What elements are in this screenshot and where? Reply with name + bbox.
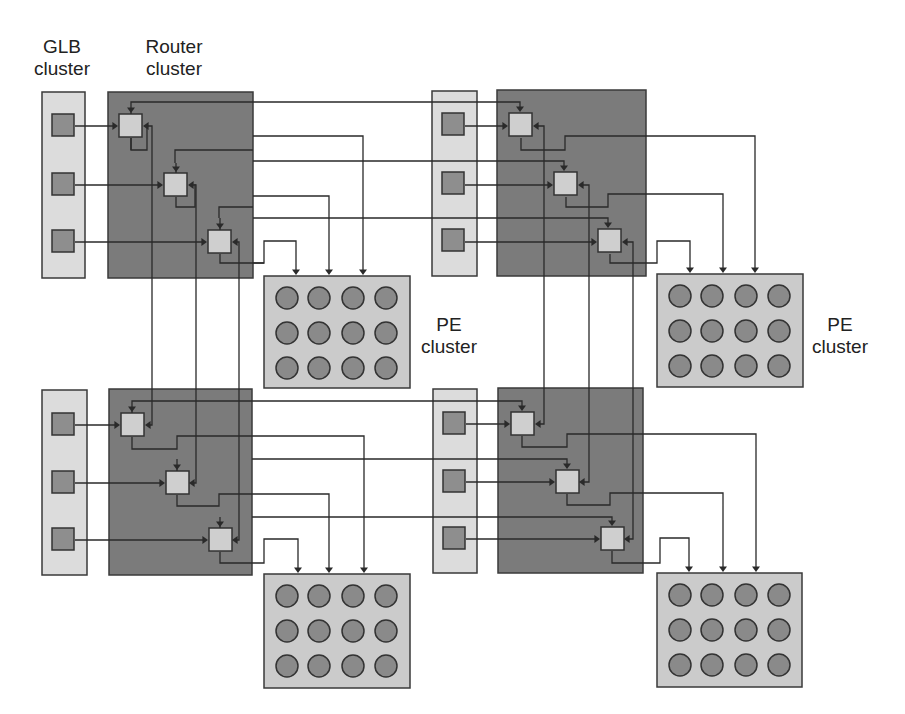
processing-element [342,322,364,344]
router-switch [119,114,142,137]
arrowhead-icon [752,566,760,572]
processing-element [768,285,790,307]
processing-element [669,584,691,606]
processing-element [375,357,397,379]
glb-bank [442,229,464,251]
router-switch [164,173,187,196]
glb-bank [442,172,464,194]
arrowhead-icon [686,267,694,273]
arrowhead-icon [719,566,727,572]
processing-element [735,584,757,606]
glb-bank [52,173,74,195]
processing-element [276,655,298,677]
processing-element [735,285,757,307]
router-switch [556,470,579,493]
processing-element [669,654,691,676]
processing-element [701,320,723,342]
processing-element [276,585,298,607]
glb-bank [443,470,465,492]
tile-top-right [432,90,803,387]
processing-element [768,584,790,606]
processing-element [701,584,723,606]
processing-element [308,585,330,607]
processing-element [768,355,790,377]
router-switch [511,412,534,435]
glb-bank [52,114,74,136]
processing-element [342,620,364,642]
processing-element [375,322,397,344]
interconnect-wire [252,401,522,409]
router-switch [208,230,231,253]
router-switch [554,172,577,195]
arrowhead-icon [292,269,300,275]
processing-element [342,287,364,309]
processing-element [669,285,691,307]
arrowhead-icon [325,269,333,275]
arrowhead-icon [359,269,367,275]
arrowhead-icon [719,267,727,273]
processing-element [342,585,364,607]
processing-element [768,654,790,676]
router-switch [598,229,621,252]
processing-element [701,654,723,676]
interconnect-wire [253,136,363,273]
processing-element [735,654,757,676]
processing-element [342,357,364,379]
arrowhead-icon [294,567,302,573]
arrowhead-icon [360,567,368,573]
tile-bottom-left [42,389,410,688]
processing-element [701,619,723,641]
glb-bank [442,113,464,135]
glb-bank [52,471,74,493]
processing-element [375,585,397,607]
processing-element [276,620,298,642]
processing-element [276,322,298,344]
glb-bank [52,528,74,550]
processing-element [276,357,298,379]
router-switch [121,413,144,436]
arrowhead-icon [751,267,759,273]
arrowhead-icon [685,566,693,572]
glb-bank [52,413,74,435]
processing-element [701,355,723,377]
router-switch [166,471,189,494]
glb-bank [443,527,465,549]
processing-element [669,619,691,641]
processing-element [342,655,364,677]
processing-element [375,620,397,642]
tile-bottom-right [433,388,802,687]
processing-element [768,619,790,641]
noc-diagram [0,0,905,714]
processing-element [669,320,691,342]
processing-element [375,287,397,309]
processing-element [735,619,757,641]
processing-element [375,655,397,677]
router-switch [601,527,624,550]
processing-element [669,355,691,377]
processing-element [308,357,330,379]
router-switch [509,113,532,136]
processing-element [276,287,298,309]
processing-element [768,320,790,342]
processing-element [308,655,330,677]
processing-element [735,320,757,342]
processing-element [308,322,330,344]
processing-element [701,285,723,307]
glb-bank [52,230,74,252]
router-switch [209,528,232,551]
processing-element [308,287,330,309]
processing-element [735,355,757,377]
glb-bank [443,412,465,434]
arrowhead-icon [325,567,333,573]
processing-element [308,620,330,642]
boxes-layer [42,90,803,688]
interconnect-wire [253,102,520,110]
